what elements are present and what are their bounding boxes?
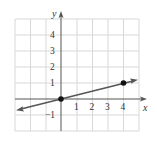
- x-tick-2: 2: [90, 102, 95, 112]
- point-4-1: [121, 80, 127, 86]
- x-axis-label: x: [142, 102, 148, 113]
- y-tick-4: 4: [50, 30, 55, 40]
- x-tick-4: 4: [121, 102, 126, 112]
- y-tick-3: 3: [50, 46, 55, 56]
- grid: [15, 19, 139, 131]
- y-tick-neg1: −1: [45, 110, 55, 120]
- x-tick-1: 1: [74, 102, 79, 112]
- point-origin: [58, 96, 64, 102]
- axes: [15, 14, 144, 131]
- coordinate-plane: y x 4 3 2 1 −1 1 2 3 4: [0, 0, 157, 143]
- y-tick-1: 1: [50, 78, 55, 88]
- x-tick-3: 3: [105, 102, 110, 112]
- y-axis-label: y: [51, 8, 57, 19]
- y-tick-2: 2: [50, 62, 55, 72]
